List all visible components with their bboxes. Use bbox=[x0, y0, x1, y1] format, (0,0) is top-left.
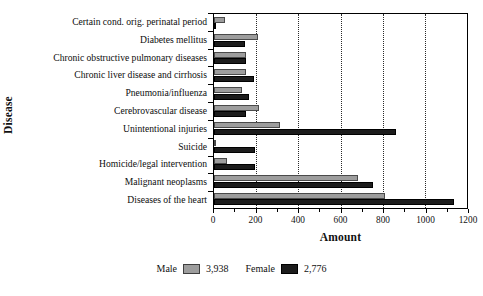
bar-male bbox=[214, 175, 358, 181]
x-axis-minor-tick bbox=[277, 209, 278, 212]
plot-area bbox=[213, 13, 468, 209]
x-axis-tick-label: 1200 bbox=[459, 215, 478, 225]
category-label: Diseases of the heart bbox=[8, 191, 211, 209]
x-axis-tick bbox=[213, 209, 214, 213]
x-axis-minor-tick bbox=[404, 209, 405, 212]
legend-value-male: 3,938 bbox=[206, 263, 229, 274]
y-axis-category-labels: Certain cond. orig. perinatal periodDiab… bbox=[8, 13, 211, 209]
bar-female bbox=[214, 23, 216, 29]
x-axis-minor-tick bbox=[234, 209, 235, 212]
bar-female bbox=[214, 76, 254, 82]
legend-swatch-female-icon bbox=[281, 264, 298, 274]
bar-group bbox=[214, 190, 467, 208]
x-axis-tick-labels: 020040060080010001200 bbox=[213, 215, 468, 229]
category-label: Diabetes mellitus bbox=[8, 31, 211, 49]
bar-rows bbox=[214, 14, 467, 208]
bar-group bbox=[214, 32, 467, 50]
legend-label-male: Male bbox=[157, 263, 178, 274]
category-label: Chronic obstructive pulmonary diseases bbox=[8, 49, 211, 67]
x-axis-title: Amount bbox=[213, 231, 468, 243]
legend: Male 3,938 Female 2,776 bbox=[0, 263, 483, 274]
bar-male bbox=[214, 69, 246, 75]
bar-group bbox=[214, 137, 467, 155]
legend-item-male: Male 3,938 bbox=[157, 263, 229, 274]
bar-female bbox=[214, 199, 454, 205]
bar-male bbox=[214, 122, 280, 128]
category-label: Homicide/legal intervention bbox=[8, 156, 211, 174]
bar-male bbox=[214, 193, 385, 199]
bar-group bbox=[214, 155, 467, 173]
bar-male bbox=[214, 158, 227, 164]
bar-group bbox=[214, 14, 467, 32]
x-axis-tick bbox=[341, 209, 342, 213]
x-axis-minor-tick bbox=[319, 209, 320, 212]
bar-female bbox=[214, 41, 245, 47]
bar-male bbox=[214, 34, 258, 40]
legend-item-female: Female 2,776 bbox=[246, 263, 327, 274]
x-axis-tick bbox=[256, 209, 257, 213]
x-axis-tick bbox=[426, 209, 427, 213]
category-label: Chronic liver disease and cirrhosis bbox=[8, 66, 211, 84]
bar-male bbox=[214, 140, 216, 146]
category-label: Malignant neoplasms bbox=[8, 173, 211, 191]
category-label: Cerebrovascular disease bbox=[8, 102, 211, 120]
legend-value-female: 2,776 bbox=[304, 263, 327, 274]
bar-female bbox=[214, 111, 246, 117]
x-axis-tick-label: 1000 bbox=[416, 215, 435, 225]
x-axis-tick-label: 400 bbox=[291, 215, 305, 225]
legend-label-female: Female bbox=[246, 263, 275, 274]
bar-female bbox=[214, 147, 255, 153]
x-axis-tick bbox=[468, 209, 469, 213]
bar-male bbox=[214, 17, 225, 23]
x-axis-tick bbox=[298, 209, 299, 213]
x-axis-tick-label: 600 bbox=[334, 215, 348, 225]
bar-chart: Disease Certain cond. orig. perinatal pe… bbox=[0, 0, 483, 296]
x-axis-tick bbox=[383, 209, 384, 213]
bar-female bbox=[214, 182, 373, 188]
bar-female bbox=[214, 164, 255, 170]
category-label: Unintentional injuries bbox=[8, 120, 211, 138]
bar-female bbox=[214, 58, 246, 64]
bar-female bbox=[214, 129, 396, 135]
legend-swatch-male-icon bbox=[183, 264, 200, 274]
bar-female bbox=[214, 94, 249, 100]
bar-group bbox=[214, 102, 467, 120]
bar-group bbox=[214, 120, 467, 138]
x-axis-minor-tick bbox=[447, 209, 448, 212]
bar-group bbox=[214, 85, 467, 103]
bar-group bbox=[214, 49, 467, 67]
category-label: Suicide bbox=[8, 138, 211, 156]
x-axis-tick-label: 200 bbox=[249, 215, 263, 225]
category-label: Pneumonia/influenza bbox=[8, 84, 211, 102]
bar-male bbox=[214, 105, 259, 111]
bar-male bbox=[214, 87, 242, 93]
bar-male bbox=[214, 52, 246, 58]
x-axis-tick-label: 0 bbox=[211, 215, 216, 225]
bar-group bbox=[214, 173, 467, 191]
x-axis-minor-tick bbox=[362, 209, 363, 212]
category-label: Certain cond. orig. perinatal period bbox=[8, 13, 211, 31]
x-axis-tick-label: 800 bbox=[376, 215, 390, 225]
bar-group bbox=[214, 67, 467, 85]
